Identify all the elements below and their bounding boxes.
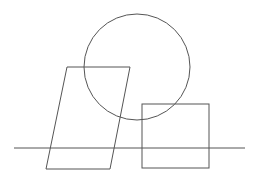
parallelogram-shape — [46, 67, 130, 169]
square-shape — [142, 104, 209, 168]
geometry-diagram — [0, 0, 256, 178]
